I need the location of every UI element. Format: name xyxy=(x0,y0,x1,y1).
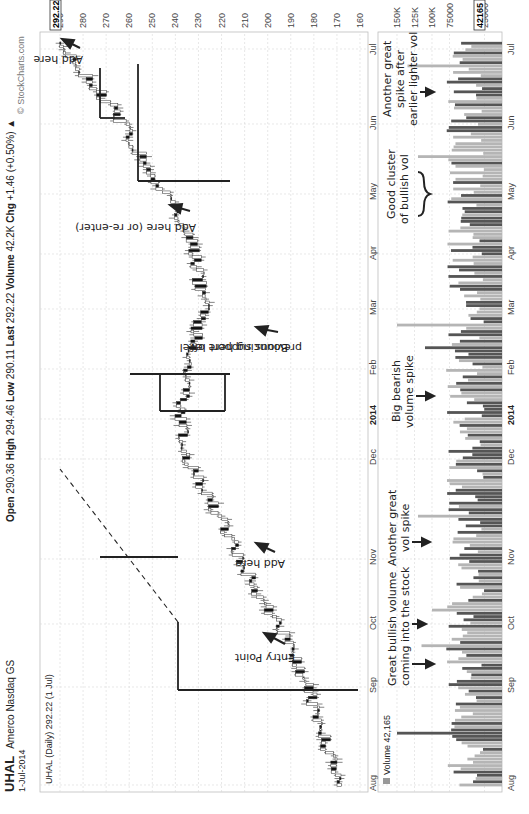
price-tick: 240 xyxy=(170,13,180,28)
date-label-top: Feb xyxy=(368,359,378,375)
volume-panel: Volume 42,165 150K125K100K7500025000 421… xyxy=(378,0,502,792)
svg-text:292.22: 292.22 xyxy=(51,0,61,28)
date-label-top: Nov xyxy=(368,548,378,565)
volume-tick: 100K xyxy=(427,7,437,28)
label-entry-point: Entry Point xyxy=(234,651,295,664)
date-label-bottom: Aug xyxy=(506,775,516,791)
price-tick: 270 xyxy=(101,13,111,28)
volume-legend: Volume 42,165 xyxy=(382,715,392,784)
price-tick: 250 xyxy=(147,13,157,28)
price-tick: 220 xyxy=(217,13,227,28)
svg-text:42165: 42165 xyxy=(475,3,485,28)
price-panel: UHAL (Daily) 292.22 (1 Jul) 290280270260… xyxy=(33,0,368,792)
annotation-labels: Entry Point Add here Bouncing here off p… xyxy=(33,53,302,664)
date-label-bottom: Feb xyxy=(506,359,516,375)
volume-tick: 75000 xyxy=(445,3,455,28)
price-tick: 190 xyxy=(286,13,296,28)
label-vol-after-3: earlier lighter vol xyxy=(407,32,420,126)
volume-last-tag: 42165 xyxy=(474,0,485,30)
date-label-top: Jun xyxy=(368,115,378,130)
price-tick: 170 xyxy=(332,13,342,28)
rotated-chart-stage: UHAL Amerco Nasdaq GS 1-Jul-2014 Open 29… xyxy=(0,0,529,814)
series-legend: UHAL (Daily) 292.22 (1 Jul) xyxy=(44,674,54,784)
label-vol-cluster-2: of bullish vol xyxy=(398,154,411,224)
label-vol-another-2: vol spike xyxy=(399,503,412,552)
date-label-bottom: Jun xyxy=(506,115,516,130)
symbol: UHAL xyxy=(2,756,17,792)
date-label-bottom: Oct xyxy=(506,615,516,630)
chart-header: UHAL Amerco Nasdaq GS 1-Jul-2014 Open 29… xyxy=(2,36,27,792)
date-label-top: May xyxy=(368,182,378,200)
chart-date: 1-Jul-2014 xyxy=(17,749,27,792)
date-label-bottom: Nov xyxy=(506,548,516,565)
date-label-bottom: Apr xyxy=(506,246,516,260)
price-tick: 180 xyxy=(309,13,319,28)
date-label-top: Sep xyxy=(368,677,378,693)
date-label-bottom: Jul xyxy=(506,43,516,55)
date-label-top: Oct xyxy=(368,615,378,630)
copyright: © StockCharts.com xyxy=(16,36,26,114)
label-vol-cluster-1: Good cluster xyxy=(385,149,398,219)
date-label-bottom: Mar xyxy=(506,299,516,315)
label-add-reenter: Add here (or re-enter) xyxy=(75,221,196,234)
annotation-lines xyxy=(60,64,358,690)
price-tick: 160 xyxy=(355,13,365,28)
candlesticks xyxy=(56,42,346,786)
stock-chart: UHAL Amerco Nasdaq GS 1-Jul-2014 Open 29… xyxy=(0,0,529,814)
label-vol-after-1: Another great xyxy=(381,40,394,117)
date-label-top: Aug xyxy=(368,775,378,791)
date-label-top: Apr xyxy=(368,246,378,260)
label-vol-bullish-1: Great bullish volume xyxy=(386,572,399,686)
price-tick: 230 xyxy=(193,13,203,28)
label-vol-bearish-2: volume spike xyxy=(403,355,416,428)
volume-annotations: Great bullish volume coming into the sto… xyxy=(381,32,434,686)
price-axis: 2902802702602502402302202102001901801701… xyxy=(55,13,365,28)
date-label-bottom: Dec xyxy=(506,448,516,465)
label-vol-after-2: spike after xyxy=(394,49,407,108)
date-label-top: 2014 xyxy=(368,405,378,425)
ohlc-summary: Open 290.36 High 294.46 Low 290.11 Last … xyxy=(5,119,16,522)
price-tick: 260 xyxy=(124,13,134,28)
price-tick: 200 xyxy=(263,13,273,28)
date-label-top: Mar xyxy=(368,299,378,315)
date-label-top: Dec xyxy=(368,448,378,465)
label-vol-another-1: Another great xyxy=(386,489,399,566)
volume-tick: 150K xyxy=(392,7,402,28)
label-bouncing-2: previous support level xyxy=(180,341,302,354)
date-label-top: Jul xyxy=(368,43,378,55)
volume-tick: 125K xyxy=(410,7,420,28)
label-add-here-1: Add here xyxy=(235,557,285,570)
date-label-bottom: 2014 xyxy=(506,405,516,425)
label-add-here-2: Add here xyxy=(33,53,83,66)
date-label-bottom: May xyxy=(506,182,516,200)
header-title-line: UHAL Amerco Nasdaq GS xyxy=(2,660,17,792)
label-vol-bearish-1: Big bearish xyxy=(390,360,403,422)
svg-text:Volume 42,165: Volume 42,165 xyxy=(382,715,392,775)
price-tick: 210 xyxy=(240,13,250,28)
last-price-tag: 292.22 xyxy=(50,0,61,30)
date-label-bottom: Sep xyxy=(506,677,516,693)
company: Amerco Nasdaq GS xyxy=(5,660,16,749)
label-vol-bullish-2: coming into the stock xyxy=(399,566,412,686)
price-tick: 280 xyxy=(78,13,88,28)
